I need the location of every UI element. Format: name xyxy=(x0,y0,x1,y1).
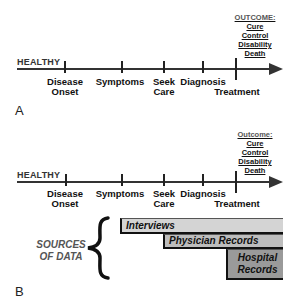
outcome-heading: Outcome: xyxy=(232,130,278,139)
tick-disease-onset xyxy=(64,61,66,73)
sources-of-data-label: SOURCES OF DATA xyxy=(33,239,89,263)
bar-physician-records: Physician Records xyxy=(163,234,283,249)
stage-label-line2: Onset xyxy=(47,199,83,209)
outcome-death: Death xyxy=(232,49,278,58)
outcome-list: Outcome: Cure Control Disability Death xyxy=(232,130,278,175)
stage-seek-care: Seek Care xyxy=(150,189,178,209)
healthy-label: HEALTHY xyxy=(17,170,60,180)
outcome-list: OUTCOME: Cure Control Disability Death xyxy=(232,13,278,58)
stage-treatment: Treatment xyxy=(212,199,262,209)
tick-symptoms xyxy=(121,61,123,73)
tick-seek-care xyxy=(163,61,165,73)
stage-symptoms: Symptoms xyxy=(95,189,145,199)
bar-label-line2: Records xyxy=(232,264,283,276)
stage-label-line2: Care xyxy=(150,199,178,209)
timeline-arrow-icon xyxy=(269,176,283,188)
timeline-arrow-icon xyxy=(269,63,283,75)
tick-treatment xyxy=(235,58,237,80)
panel-label-b: B xyxy=(15,284,24,299)
outcome-cure: Cure xyxy=(232,139,278,148)
tick-symptoms xyxy=(121,174,123,186)
outcome-disability: Disability xyxy=(232,157,278,166)
tick-disease-onset xyxy=(65,174,67,186)
panel-label-a: A xyxy=(15,103,24,118)
outcome-cure: Cure xyxy=(232,22,278,31)
tick-diagnosis xyxy=(202,174,204,186)
curly-brace-icon xyxy=(86,216,114,280)
stage-symptoms: Symptoms xyxy=(95,77,145,87)
tick-seek-care xyxy=(163,174,165,186)
stage-disease-onset: Disease Onset xyxy=(47,77,83,97)
tick-diagnosis xyxy=(202,61,204,73)
bar-interviews: Interviews xyxy=(120,218,283,234)
outcome-control: Control xyxy=(232,31,278,40)
bar-label-line1: Hospital xyxy=(232,252,283,264)
sources-line2: OF DATA xyxy=(33,251,89,263)
outcome-control: Control xyxy=(232,148,278,157)
sources-line1: SOURCES xyxy=(33,239,89,251)
outcome-disability: Disability xyxy=(232,40,278,49)
bar-hospital-records: Hospital Records xyxy=(226,249,283,280)
outcome-death: Death xyxy=(232,166,278,175)
healthy-label: HEALTHY xyxy=(17,57,60,67)
stage-treatment: Treatment xyxy=(212,87,262,97)
stage-label-line2: Care xyxy=(150,87,178,97)
stage-seek-care: Seek Care xyxy=(150,77,178,97)
outcome-heading: OUTCOME: xyxy=(232,13,278,22)
stage-label-line2: Onset xyxy=(47,87,83,97)
stage-disease-onset: Disease Onset xyxy=(47,189,83,209)
